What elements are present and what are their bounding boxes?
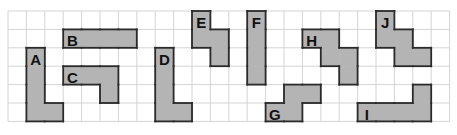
shape-j: J	[376, 11, 432, 67]
shape-label: C	[67, 69, 78, 86]
shape-label: A	[30, 51, 41, 68]
shape-e: E	[192, 11, 229, 67]
shape-label: J	[381, 14, 389, 31]
shape-h: H	[302, 29, 358, 85]
shape-label: D	[159, 51, 170, 68]
shape-g: G	[266, 85, 322, 123]
shape-label: H	[306, 32, 317, 49]
shape-label: F	[252, 14, 261, 31]
shape-label: G	[269, 106, 281, 123]
shape-b: B	[63, 29, 137, 49]
shape-f: F	[247, 11, 266, 85]
shape-label: E	[196, 14, 206, 31]
shapes-diagram: ABCDEFGHIJ	[0, 0, 457, 135]
shape-c: C	[63, 66, 119, 103]
shape-label: B	[67, 32, 78, 49]
shape-label: I	[365, 106, 369, 123]
